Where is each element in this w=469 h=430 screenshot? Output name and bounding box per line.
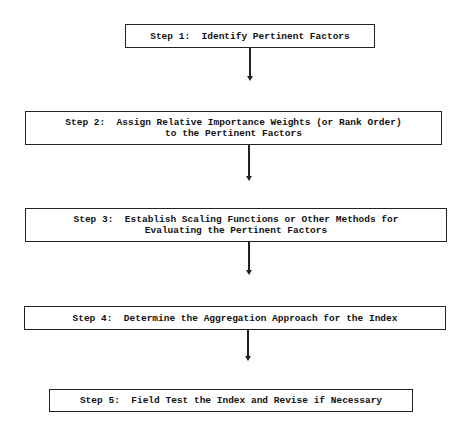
arrow-4-5-head-icon: [245, 356, 251, 361]
step-4-text: Step 4: Determine the Aggregation Approa…: [73, 313, 398, 324]
step-5-text: Step 5: Field Test the Index and Revise …: [80, 395, 382, 406]
step-2-text-line-1: Step 2: Assign Relative Importance Weigh…: [65, 117, 401, 128]
step-4-box: Step 4: Determine the Aggregation Approa…: [24, 306, 446, 330]
arrow-1-2-line: [249, 48, 251, 76]
arrow-3-4-head-icon: [246, 270, 252, 275]
arrow-2-3-line: [248, 145, 250, 176]
arrow-3-4-line: [248, 242, 250, 270]
step-3-box: Step 3: Establish Scaling Functions or O…: [25, 208, 447, 242]
arrow-1-2-head-icon: [247, 76, 253, 81]
step-5-box: Step 5: Field Test the Index and Revise …: [49, 389, 413, 412]
step-1-text: Step 1: Identify Pertinent Factors: [150, 31, 350, 42]
step-2-text-line-2: to the Pertinent Factors: [165, 128, 302, 139]
step-3-text-line-2: Evaluating the Pertinent Factors: [145, 225, 327, 236]
arrow-4-5-line: [247, 330, 249, 356]
step-2-box: Step 2: Assign Relative Importance Weigh…: [25, 111, 442, 145]
arrow-2-3-head-icon: [246, 176, 252, 181]
step-3-text-line-1: Step 3: Establish Scaling Functions or O…: [74, 214, 399, 225]
step-1-box: Step 1: Identify Pertinent Factors: [125, 24, 375, 48]
